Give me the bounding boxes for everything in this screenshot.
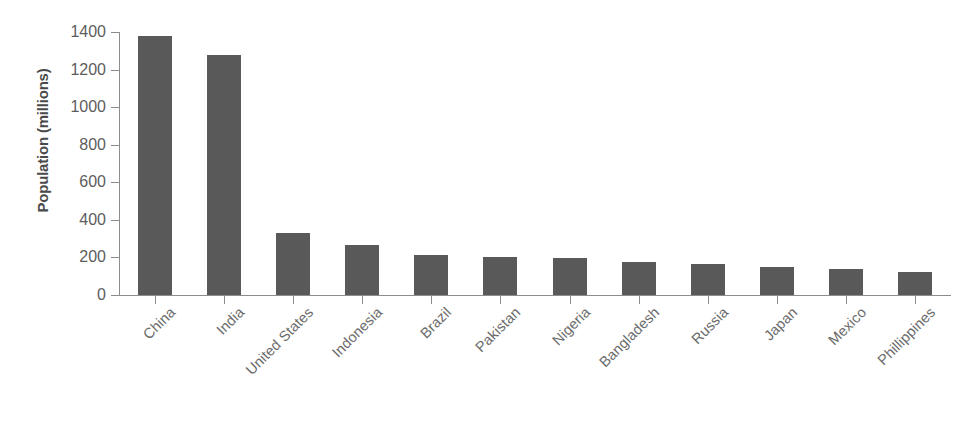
bar[interactable]: [829, 269, 863, 295]
y-tick-mark: [111, 257, 120, 258]
y-tick-label: 600: [79, 173, 106, 191]
bar[interactable]: [414, 255, 448, 295]
x-tick-label: Bangladesh: [596, 304, 662, 370]
bar[interactable]: [345, 245, 379, 295]
y-tick-label: 1400: [70, 23, 106, 41]
x-tick-label: Mexico: [825, 304, 869, 348]
bar[interactable]: [622, 262, 656, 295]
x-tick-label: Pakistan: [473, 304, 524, 355]
y-tick-mark: [111, 32, 120, 33]
y-tick-mark: [111, 107, 120, 108]
x-tick-label: United States: [242, 304, 316, 378]
plot-area: 0200400600800100012001400: [120, 32, 950, 295]
x-tick-label: India: [213, 304, 247, 338]
bar[interactable]: [691, 264, 725, 295]
x-tick-label: Japan: [761, 304, 801, 344]
y-tick-mark: [111, 182, 120, 183]
bar[interactable]: [898, 272, 932, 295]
y-tick-label: 1000: [70, 98, 106, 116]
y-tick-mark: [111, 220, 120, 221]
y-tick-mark: [111, 295, 120, 296]
bar[interactable]: [760, 267, 794, 295]
bar[interactable]: [276, 233, 310, 295]
bar[interactable]: [553, 258, 587, 295]
y-tick-label: 400: [79, 211, 106, 229]
x-axis-labels: ChinaIndiaUnited StatesIndonesiaBrazilPa…: [120, 296, 950, 426]
x-tick-label: Indonesia: [329, 304, 385, 360]
x-tick-label: Phillippines: [875, 304, 939, 368]
y-tick-mark: [111, 145, 120, 146]
y-tick-label: 0: [97, 286, 106, 304]
x-tick-label: Nigeria: [549, 304, 593, 348]
y-tick-label: 1200: [70, 61, 106, 79]
bar[interactable]: [138, 36, 172, 295]
y-tick-label: 800: [79, 136, 106, 154]
y-axis-title: Population (millions): [34, 11, 51, 271]
x-tick-label: Russia: [688, 304, 731, 347]
bar[interactable]: [483, 257, 517, 296]
y-tick-label: 200: [79, 248, 106, 266]
y-tick-mark: [111, 70, 120, 71]
x-tick-label: China: [139, 304, 177, 342]
bar-chart: Population (millions) 020040060080010001…: [0, 0, 976, 427]
x-tick-label: Brazil: [417, 304, 454, 341]
bar[interactable]: [207, 55, 241, 295]
